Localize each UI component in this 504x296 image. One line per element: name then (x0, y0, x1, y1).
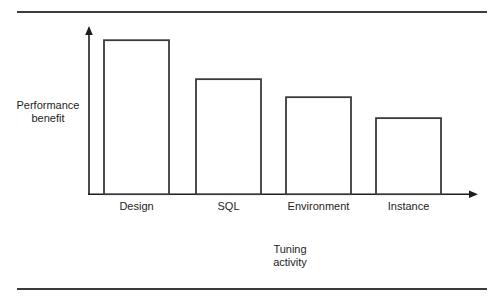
bar-sql (196, 79, 261, 194)
y-axis-title: Performance benefit (8, 99, 88, 125)
x-tick-label-design: Design (84, 200, 189, 213)
y-axis-title-line-2: benefit (8, 112, 88, 125)
figure-container: Performance benefit Tuning activity Desi… (0, 0, 504, 296)
bar-design (104, 40, 169, 194)
bar-instance (376, 118, 441, 194)
x-axis-title: Tuning activity (238, 243, 342, 269)
arrow-up-icon (85, 26, 93, 35)
bar-environment (286, 97, 351, 194)
x-tick-label-instance: Instance (356, 200, 461, 213)
bar-series (104, 40, 441, 194)
y-axis-title-line-1: Performance (8, 99, 88, 112)
x-axis-title-line-1: Tuning (238, 243, 342, 256)
arrow-right-icon (469, 190, 478, 198)
x-axis-title-line-2: activity (238, 256, 342, 269)
